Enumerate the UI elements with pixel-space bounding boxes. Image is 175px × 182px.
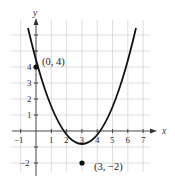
vertex-label: (3, −2)	[94, 161, 123, 173]
y-tick-label: 2	[27, 94, 32, 104]
point-y-intercept	[33, 64, 38, 69]
y-tick-label: 3	[27, 78, 32, 88]
x-axis-arrow-icon	[150, 129, 157, 134]
point-vertex	[79, 160, 84, 165]
x-tick-label: 7	[141, 135, 146, 145]
y-axis-arrow-icon	[34, 18, 39, 25]
y-tick-label: 4	[27, 62, 32, 72]
x-tick-label: 1	[49, 135, 54, 145]
x-axis-label: x	[161, 126, 167, 136]
grid	[12, 20, 150, 172]
parabola-graph: x y −1 1 2 3 4 5 6 7 −2 1 2 3 4 (0, 4) (…	[0, 0, 175, 182]
x-tick-label: 6	[126, 135, 131, 145]
y-axis-label: y	[32, 8, 38, 18]
y-tick-label: 1	[27, 110, 32, 120]
x-tick-label: 5	[110, 135, 115, 145]
y-tick-label: −2	[20, 158, 30, 168]
x-tick-label: −1	[14, 135, 24, 145]
y-intercept-label: (0, 4)	[42, 56, 65, 68]
